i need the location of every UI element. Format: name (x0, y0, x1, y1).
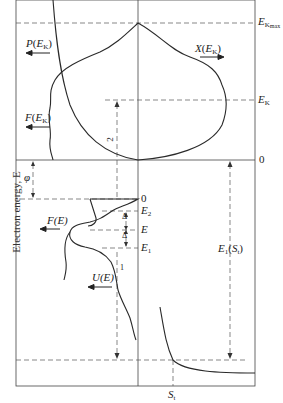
f-ek-label: F(EK) (25, 112, 51, 125)
e-label: E (141, 224, 148, 235)
u-e-label: U(E) (92, 272, 114, 283)
arrow-2-head (115, 101, 120, 107)
e1-st-arrow-top (228, 161, 233, 167)
u-e-arrowhead (88, 285, 94, 290)
y-axis-label: Electron energy, E (10, 152, 22, 272)
p-ek-curve (53, 0, 138, 160)
arrow-2-label: 2 (106, 137, 115, 142)
f-e-u-e-curve (70, 199, 138, 340)
st-curve (160, 307, 255, 373)
arrow-1-head (115, 353, 120, 359)
e1-st-label: E1(St) (218, 243, 243, 256)
e2-label: E2 (141, 205, 151, 218)
st-label: St (168, 389, 175, 402)
phi-arrow-top (31, 161, 35, 166)
f-e-label: F(E) (47, 215, 68, 226)
phi-arrow-bottom (31, 193, 35, 198)
delta-upper-label: Δ (122, 213, 127, 221)
zero-lower-label: 0 (141, 193, 147, 204)
e1-label: E1 (141, 242, 151, 255)
e1-st-arrow-bottom (228, 353, 233, 359)
ek-max-label: EKmax (258, 16, 280, 29)
f-e-tail (64, 232, 70, 280)
p-ek-label: P(EK) (26, 38, 52, 51)
zero-upper-label: 0 (259, 154, 265, 165)
arrow-1-label: 1 (120, 264, 124, 272)
p-ek-arrowhead (26, 51, 32, 56)
x-ek-label: X(EK) (195, 43, 221, 56)
delta-lower-label: Δ (122, 232, 127, 240)
delta-mid-head-1 (124, 226, 128, 230)
phi-label: φ (24, 172, 30, 183)
ek-label: EK (258, 94, 270, 107)
f-e-arrowhead (40, 227, 46, 232)
f-ek-arrowhead (26, 125, 32, 130)
delta-arrow-bottom (124, 242, 128, 247)
